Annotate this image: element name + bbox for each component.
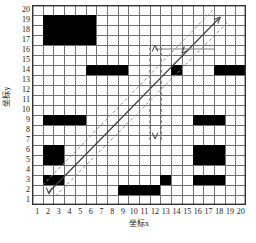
y-axis-ticks: 1234567891011121314151617181920 <box>12 5 31 205</box>
y-tick-19: 19 <box>22 16 30 24</box>
y-tick-10: 10 <box>22 106 30 114</box>
y-tick-13: 13 <box>22 76 30 84</box>
y-tick-17: 17 <box>22 36 30 44</box>
y-tick-2: 2 <box>26 186 30 194</box>
x-axis-title: 坐标x <box>32 219 246 228</box>
grid-plot-area[interactable] <box>32 5 246 205</box>
y-tick-20: 20 <box>22 6 30 14</box>
y-tick-7: 7 <box>26 136 30 144</box>
y-tick-1: 1 <box>26 196 30 204</box>
y-tick-18: 18 <box>22 26 30 34</box>
y-tick-4: 4 <box>26 166 30 174</box>
x-axis-ticks: 1234567891011121314151617181920 <box>32 207 246 218</box>
y-tick-14: 14 <box>22 66 30 74</box>
y-tick-5: 5 <box>26 156 30 164</box>
y-tick-12: 12 <box>22 86 30 94</box>
y-tick-8: 8 <box>26 126 30 134</box>
y-tick-16: 16 <box>22 46 30 54</box>
grid-map-canvas[interactable] <box>32 5 246 205</box>
y-tick-9: 9 <box>26 116 30 124</box>
y-axis-title: 坐标y <box>2 82 11 112</box>
y-tick-6: 6 <box>26 146 30 154</box>
figure-root: 坐标y 1234567891011121314151617181920 1234… <box>0 0 256 243</box>
y-tick-15: 15 <box>22 56 30 64</box>
y-tick-3: 3 <box>26 176 30 184</box>
x-tick-20: 20 <box>234 207 248 216</box>
y-tick-11: 11 <box>22 96 30 104</box>
